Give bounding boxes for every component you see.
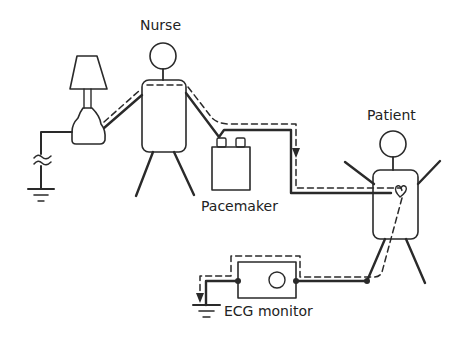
patient-figure <box>345 131 440 283</box>
nurse-figure <box>104 43 219 196</box>
arrow-down-icon <box>196 293 204 303</box>
ecg-ground-wire <box>206 281 238 305</box>
arrow-down-icon <box>292 148 300 158</box>
ecg-monitor-label: ECG monitor <box>224 304 313 318</box>
lamp-icon <box>70 56 107 144</box>
lamp-ground-wire <box>34 132 72 189</box>
patient-label: Patient <box>367 108 416 122</box>
pacemaker-device <box>212 138 250 190</box>
pacemaker-label: Pacemaker <box>201 199 278 213</box>
diagram-canvas: Nurse Patient Pacemaker ECG monitor <box>0 0 460 339</box>
ground-ecg-icon <box>193 305 220 317</box>
nurse-label: Nurse <box>140 18 181 32</box>
ground-left-icon <box>28 189 54 201</box>
ecg-monitor-device <box>238 262 296 298</box>
microshock-diagram <box>0 0 460 339</box>
